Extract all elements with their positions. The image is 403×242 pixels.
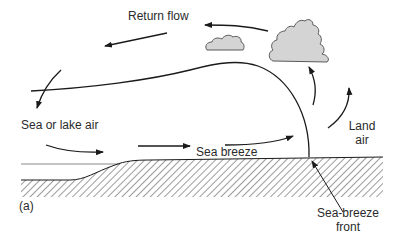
cumulus-cloud-icon	[269, 20, 328, 62]
front-label-line2: front	[316, 220, 380, 234]
land-hatch	[21, 157, 383, 197]
land-air-label-line2: air	[347, 133, 377, 147]
sea-breeze-arrow-1	[46, 145, 103, 152]
rising-arrow-2	[328, 88, 349, 128]
sea-breeze-label: Sea breeze	[196, 145, 257, 159]
return-flow-arrow-right	[205, 25, 268, 31]
panel-label: (a)	[19, 199, 34, 213]
land-air-label-line1: Land	[347, 119, 377, 133]
sea-breeze-front-label: Sea-breeze front	[316, 206, 380, 234]
sea-or-lake-air-label: Sea or lake air	[21, 118, 98, 132]
return-flow-arrow-left	[105, 33, 167, 46]
sea-breeze-arrow-3	[225, 136, 293, 145]
front-label-line1: Sea-breeze	[316, 206, 380, 220]
return-flow-label: Return flow	[128, 9, 189, 23]
rising-arrow-1	[309, 67, 315, 105]
land-air-label: Land air	[347, 119, 377, 147]
small-cloud-icon	[206, 35, 244, 50]
sea-breeze-diagram: Return flow Sea or lake air Sea breeze L…	[0, 0, 403, 242]
